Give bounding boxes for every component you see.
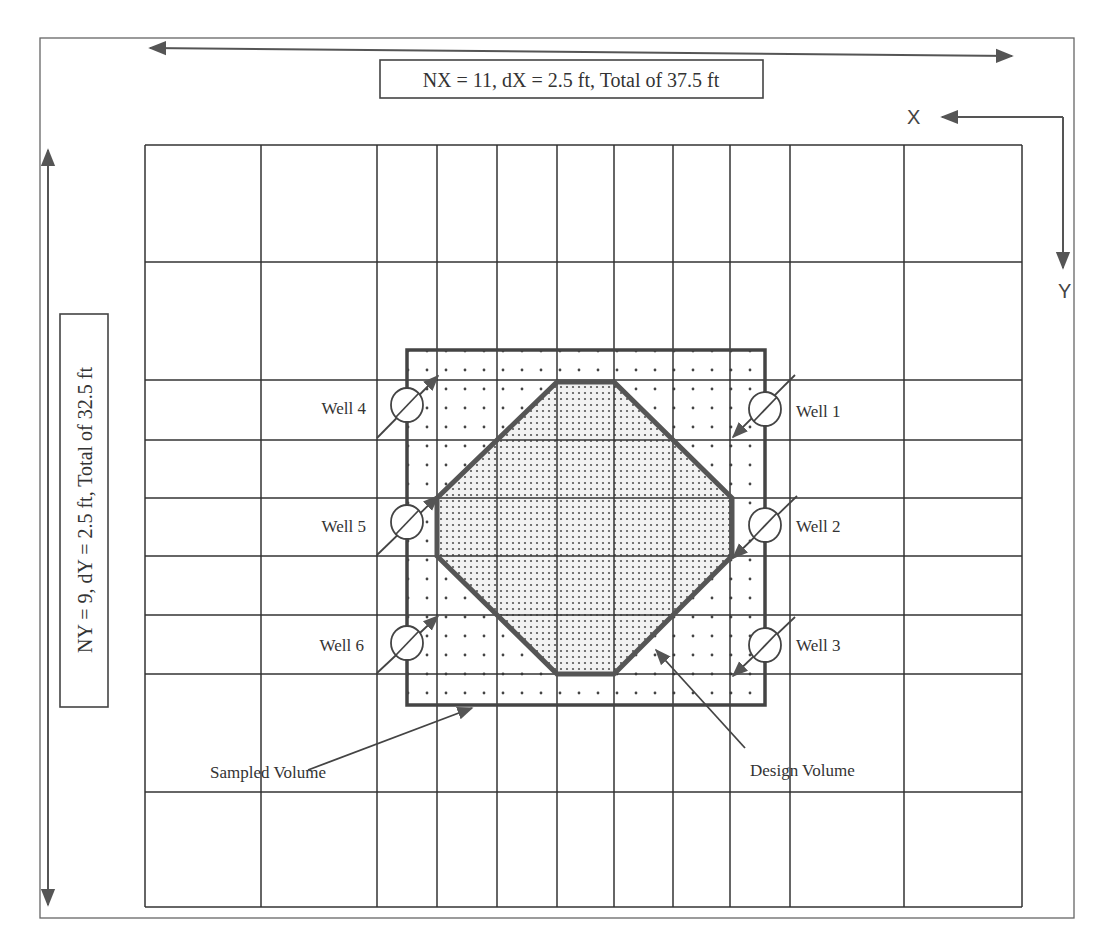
sampled-volume-pointer bbox=[308, 708, 472, 770]
y-dimension-label-box: NY = 9, dY = 2.5 ft, Total of 32.5 ft bbox=[60, 314, 108, 707]
x-dimension-label-box: NX = 11, dX = 2.5 ft, Total of 37.5 ft bbox=[380, 60, 763, 98]
x-dimension-label: NX = 11, dX = 2.5 ft, Total of 37.5 ft bbox=[423, 69, 720, 91]
axis-indicator: X Y bbox=[907, 106, 1071, 302]
sampled-volume-label: Sampled Volume bbox=[210, 763, 326, 782]
y-dimension-label: NY = 9, dY = 2.5 ft, Total of 32.5 ft bbox=[74, 367, 96, 653]
x-dimension-arrow bbox=[150, 48, 1012, 56]
grid-diagram: NX = 11, dX = 2.5 ft, Total of 37.5 ft N… bbox=[0, 0, 1109, 950]
axis-y-label: Y bbox=[1058, 280, 1071, 302]
well-label-1: Well 1 bbox=[796, 402, 840, 421]
well-label-4: Well 4 bbox=[322, 399, 367, 418]
well-label-2: Well 2 bbox=[796, 517, 840, 536]
well-label-6: Well 6 bbox=[320, 636, 364, 655]
well-label-5: Well 5 bbox=[322, 517, 366, 536]
axis-x-label: X bbox=[907, 106, 920, 128]
well-label-3: Well 3 bbox=[796, 636, 840, 655]
design-volume-label: Design Volume bbox=[750, 761, 855, 780]
